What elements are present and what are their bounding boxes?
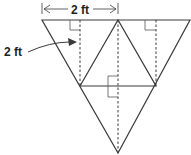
side-arrow	[28, 42, 70, 52]
triangle-diagram: 2 ft 2 ft	[0, 0, 191, 155]
top-dimension-label: 2 ft	[71, 3, 89, 17]
side-arrow-head-icon	[68, 38, 77, 46]
side-label: 2 ft	[4, 45, 22, 59]
